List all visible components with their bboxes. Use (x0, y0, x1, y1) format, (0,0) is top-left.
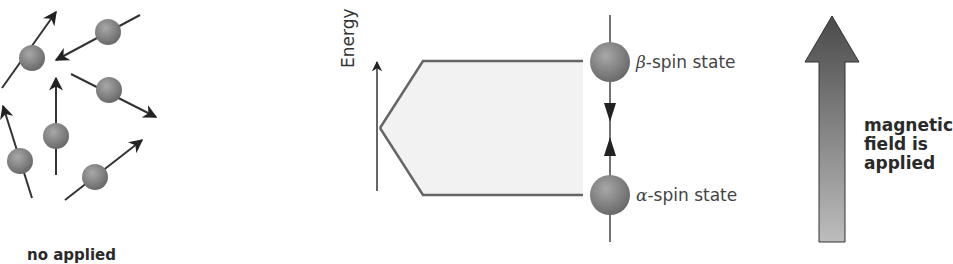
alpha-spin-state-label: α-spin state (636, 185, 737, 205)
field-applied-label: magnetic field is applied (864, 116, 953, 173)
down-arrowhead-icon (604, 103, 616, 122)
spin-icon (56, 15, 140, 60)
no-field-caption: no applied (27, 246, 116, 264)
alpha-spin-sphere (590, 175, 630, 215)
up-arrowhead-icon (604, 137, 616, 156)
energy-axis-label: Energy (338, 8, 358, 68)
spin-icon (2, 12, 56, 88)
spin-icon (65, 140, 142, 200)
random-spins (2, 12, 156, 200)
nmr-spin-diagram (0, 0, 953, 264)
energy-diagram (377, 15, 630, 242)
beta-spin-sphere (590, 42, 630, 82)
spin-icon (43, 78, 69, 175)
spin-icon (3, 106, 33, 198)
spin-icon (71, 74, 156, 117)
beta-spin-state-label: β-spin state (636, 52, 736, 72)
magnetic-field-arrow-icon (805, 16, 859, 242)
